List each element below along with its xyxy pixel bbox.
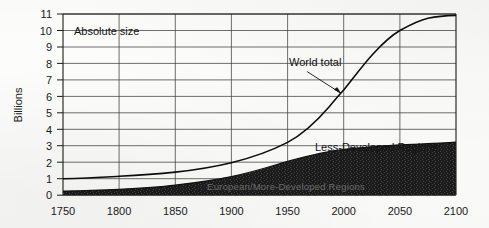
x-tick-label: 1900: [219, 205, 243, 217]
x-tick-label: 1800: [107, 205, 131, 217]
y-tick-label: 4: [46, 124, 52, 136]
x-tick-label: 1950: [275, 205, 299, 217]
y-tick-label: 11: [41, 8, 52, 20]
y-tick-label: 8: [46, 58, 52, 70]
annotation-more-developed-regions: European/More-Developed Regions: [207, 181, 365, 192]
y-tick-label: 10: [40, 25, 52, 37]
chart-figure: 11 10 9 8 7 6 5 4 3 2 1 0 1750 1800 1850…: [0, 0, 489, 228]
annotation-less-developed-regions: Less-Developed Regions: [315, 141, 438, 153]
x-tick-label: 2050: [388, 205, 412, 217]
x-tick-label: 1750: [51, 205, 75, 217]
x-tick-label: 2000: [331, 205, 355, 217]
x-tick-label: 1850: [163, 205, 187, 217]
y-tick-marks: [57, 14, 63, 195]
y-tick-label: 3: [46, 140, 52, 152]
y-tick-label: 0: [46, 189, 52, 201]
y-tick-label: 7: [46, 74, 52, 86]
population-projection-chart: 11 10 9 8 7 6 5 4 3 2 1 0 1750 1800 1850…: [0, 0, 489, 228]
world-total-arrow: [307, 72, 341, 94]
x-tick-labels: 1750 1800 1850 1900 1950 2000 2050 2100: [51, 205, 468, 217]
annotation-world-total: World total: [289, 56, 341, 68]
y-tick-label: 1: [46, 173, 52, 185]
x-tick-label: 2100: [444, 205, 468, 217]
y-axis-title: Billions: [12, 87, 24, 122]
y-tick-label: 9: [46, 41, 52, 53]
y-tick-label: 2: [46, 157, 52, 169]
annotation-absolute-size: Absolute size: [74, 25, 139, 37]
y-tick-labels: 11 10 9 8 7 6 5 4 3 2 1 0: [40, 8, 52, 201]
y-tick-label: 5: [46, 107, 52, 119]
y-tick-label: 6: [46, 91, 52, 103]
